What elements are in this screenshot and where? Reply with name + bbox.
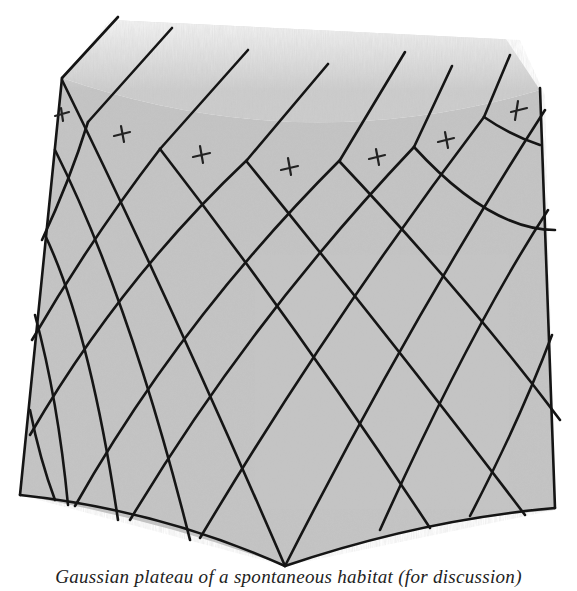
figure-caption: Gaussian plateau of a spontaneous habita… <box>0 566 577 591</box>
